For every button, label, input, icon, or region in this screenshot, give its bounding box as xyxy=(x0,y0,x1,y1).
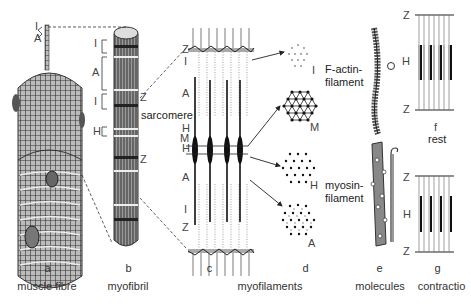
panel-a-caption: muscle fibre xyxy=(16,280,78,292)
c-Z-top-label: Z xyxy=(182,44,189,55)
f-Z-top-label: Z xyxy=(403,10,410,21)
actin-label-line2: filament xyxy=(325,77,364,88)
sarcomere-label: sarcomere xyxy=(141,110,193,121)
f-H-label: H xyxy=(402,56,410,67)
myofibril-illustration xyxy=(102,27,138,246)
myofibril-I-band-label: I xyxy=(94,38,97,49)
g-H-label: H xyxy=(403,209,411,220)
sarcomere-contracted-illustration xyxy=(415,176,454,252)
myofilament-illustration xyxy=(186,28,254,276)
panel-g-letter: g xyxy=(430,262,445,274)
myofilaments-caption: myofilaments xyxy=(230,280,310,292)
actin-label-line1: F-actin- xyxy=(325,64,362,75)
c-A-top-label: A xyxy=(182,88,189,99)
myofibril-Z-line-label: Z xyxy=(140,92,147,103)
panel-b-letter: b xyxy=(121,262,136,274)
c-I-top-label: I xyxy=(184,56,187,67)
g-Z-top-label: Z xyxy=(403,172,410,183)
f-panel-letter: f xyxy=(434,122,437,133)
d-A-label: A xyxy=(308,238,315,249)
f-Z-bottom-label: Z xyxy=(403,104,410,115)
panel-d-letter: d xyxy=(298,262,313,274)
arrows-to-cross-sections xyxy=(248,52,284,206)
fibre-I-band-label: I xyxy=(35,21,38,32)
d-M-label: M xyxy=(310,122,319,133)
panel-c-letter: c xyxy=(202,262,217,274)
fibre-A-band-label: A xyxy=(34,33,41,44)
myofibril-A-band-label: A xyxy=(92,67,99,78)
myosin-label-line2: filament xyxy=(325,193,364,204)
d-I-label: I xyxy=(312,65,315,76)
muscle-fibre-illustration xyxy=(12,25,85,288)
myofibril-H-zone-label: H xyxy=(93,126,101,137)
c-A-bottom-label: A xyxy=(182,172,189,183)
panel-a-letter: a xyxy=(40,262,55,274)
rest-label: rest xyxy=(428,134,446,145)
myosin-label-line1: myosin- xyxy=(325,180,364,191)
c-H-bottom-label: H xyxy=(182,143,190,154)
panel-e-caption: molecules xyxy=(352,280,408,292)
myofibril-I-band-label-2: I xyxy=(94,96,97,107)
muscle-structure-diagram xyxy=(0,0,471,306)
sarcomere-rest-illustration xyxy=(415,15,454,110)
c-Z-bottom-label: Z xyxy=(182,222,189,233)
panel-e-letter: e xyxy=(372,262,387,274)
g-Z-bottom-label: Z xyxy=(403,246,410,257)
c-I-bottom-label: I xyxy=(184,204,187,215)
myofibril-Z-line-label-2: Z xyxy=(140,154,147,165)
panel-g-caption: contractio xyxy=(412,280,471,292)
panel-b-caption: myofibril xyxy=(102,280,154,292)
molecule-illustrations xyxy=(371,28,398,246)
d-H-label: H xyxy=(310,180,318,191)
